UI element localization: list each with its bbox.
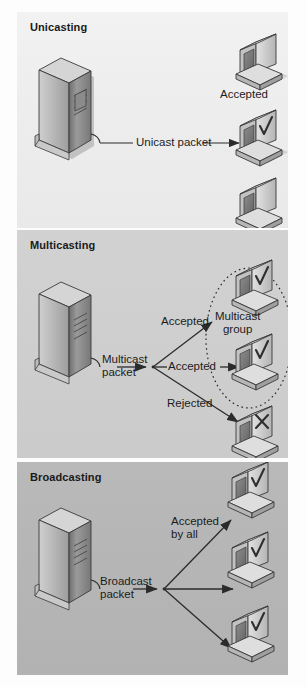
client-workstation-b2 [228, 532, 274, 588]
label-accepted-m2: Accepted [168, 360, 216, 373]
unicast-graphics [17, 12, 288, 228]
panel-broadcasting: Broadcasting [17, 462, 288, 675]
client-workstation-b1 [228, 462, 274, 518]
multicast-graphics [17, 230, 288, 458]
server-tower-unicast [35, 58, 94, 160]
network-delivery-diagram: Unicasting [0, 0, 307, 687]
panel-multicasting: Multicasting [17, 230, 288, 458]
label-unicast-packet: Unicast packet [136, 136, 211, 149]
label-rejected-m3: Rejected [167, 397, 212, 410]
label-multicast-group-line1: Multicast [215, 310, 260, 322]
label-accepted-by-all-line2: by all [171, 528, 198, 540]
client-workstation-u1 [236, 34, 288, 90]
panel-unicasting: Unicasting [17, 12, 288, 228]
client-workstation-m3 [232, 406, 278, 458]
client-workstation-b3 [228, 606, 274, 662]
label-broadcast-packet-line1: Broadcast [100, 575, 152, 587]
client-workstation-u3 [236, 178, 282, 228]
broadcast-graphics [17, 462, 288, 675]
client-workstation-m1 [232, 260, 278, 316]
label-accepted-u2: Accepted [220, 88, 268, 101]
label-multicast-packet-line2: packet [102, 366, 136, 378]
label-multicast-packet-line1: Multicast [102, 353, 147, 365]
label-multicast-group-line2: group [223, 323, 252, 335]
server-tower-multicast [35, 282, 91, 384]
client-workstation-u2 [236, 110, 288, 166]
label-accepted-m1: Accepted [161, 315, 209, 328]
label-broadcast-packet-line2: packet [100, 588, 134, 600]
client-workstation-m2 [232, 334, 278, 390]
server-tower-broadcast [35, 508, 91, 610]
label-accepted-by-all-line1: Accepted [171, 515, 219, 527]
